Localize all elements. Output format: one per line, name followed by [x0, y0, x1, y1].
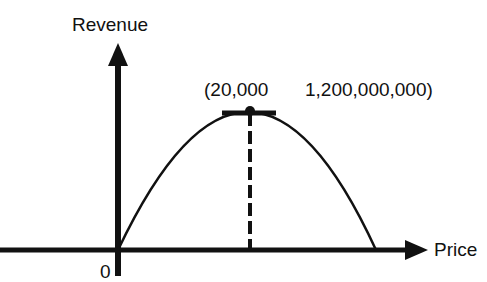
revenue-price-diagram [0, 0, 487, 282]
x-axis-label: Price [434, 240, 477, 259]
x-axis [0, 240, 428, 260]
y-axis [108, 43, 128, 276]
peak-price-label: (20,000 [204, 80, 268, 99]
origin-label: 0 [100, 262, 111, 281]
peak-revenue-label: 1,200,000,000) [305, 80, 433, 99]
y-axis-label: Revenue [72, 15, 148, 34]
revenue-curve [118, 112, 376, 250]
x-axis-arrowhead-icon [405, 240, 428, 260]
peak-point [245, 106, 255, 116]
y-axis-arrowhead-icon [108, 43, 128, 66]
